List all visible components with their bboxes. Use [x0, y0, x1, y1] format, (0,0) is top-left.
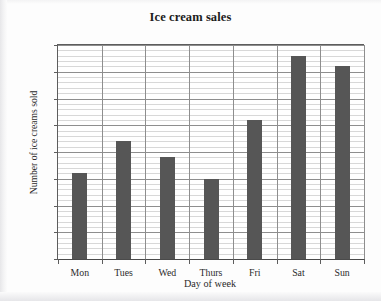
bar-fri	[247, 120, 262, 259]
gridline-minor	[58, 141, 364, 142]
plot-area: 0510152025303540 MonTuesWedThursFriSatSu…	[57, 44, 364, 259]
gridline-minor	[58, 93, 364, 94]
x-tick-mark	[277, 259, 278, 264]
gridline-minor	[58, 147, 364, 148]
x-tick-mark	[189, 259, 190, 264]
chart-page: Ice cream sales 0510152025303540 MonTues…	[0, 0, 381, 301]
scan-edge-top	[0, 0, 381, 4]
gridline-minor	[58, 163, 364, 164]
gridline-major	[58, 99, 364, 100]
x-tick-mark	[102, 259, 103, 264]
y-tick-mark	[54, 232, 58, 233]
gridline-minor	[58, 136, 364, 137]
gridline-minor	[58, 82, 364, 83]
x-tick-label-sun: Sun	[312, 267, 372, 278]
bar-mon	[72, 173, 87, 259]
x-tick-mark	[145, 259, 146, 264]
y-tick-mark	[54, 125, 58, 126]
gridline-minor	[58, 56, 364, 57]
y-tick-mark	[54, 152, 58, 153]
x-tick-mark	[320, 259, 321, 264]
gridline-minor	[58, 173, 364, 174]
gridline-minor	[58, 168, 364, 169]
bar-thurs	[204, 179, 219, 259]
gridline-minor	[58, 109, 364, 110]
gridline-vertical	[233, 45, 234, 259]
y-axis-title: Number of ice creams sold	[28, 36, 39, 250]
gridline-major	[58, 152, 364, 153]
chart-title: Ice cream sales	[0, 10, 381, 25]
bar-sat	[291, 56, 306, 259]
y-tick-mark	[54, 99, 58, 100]
y-tick-mark	[54, 72, 58, 73]
y-tick-mark	[54, 179, 58, 180]
gridline-vertical	[189, 45, 190, 259]
gridline-minor	[58, 66, 364, 67]
gridline-major	[58, 72, 364, 73]
gridline-minor	[58, 120, 364, 121]
gridline-major	[58, 45, 364, 46]
bar-wed	[160, 157, 175, 259]
gridline-vertical	[145, 45, 146, 259]
x-tick-mark	[233, 259, 234, 264]
scan-edge-bottom	[0, 292, 381, 301]
gridline-minor	[58, 131, 364, 132]
gridline-minor	[58, 157, 364, 158]
gridline-minor	[58, 50, 364, 51]
y-tick-mark	[54, 45, 58, 46]
gridline-vertical	[277, 45, 278, 259]
gridline-minor	[58, 61, 364, 62]
scan-edge-left	[0, 0, 7, 301]
y-tick-mark	[54, 206, 58, 207]
bar-sun	[335, 66, 350, 259]
x-tick-mark	[364, 259, 365, 264]
gridline-vertical	[320, 45, 321, 259]
plot-right-border	[364, 45, 365, 259]
gridline-major	[58, 125, 364, 126]
x-axis-title: Day of week	[57, 278, 363, 289]
x-axis-line	[57, 259, 364, 260]
gridline-minor	[58, 88, 364, 89]
gridline-minor	[58, 115, 364, 116]
gridline-minor	[58, 104, 364, 105]
x-tick-mark	[58, 259, 59, 264]
gridline-minor	[58, 77, 364, 78]
bar-tues	[116, 141, 131, 259]
gridline-vertical	[102, 45, 103, 259]
